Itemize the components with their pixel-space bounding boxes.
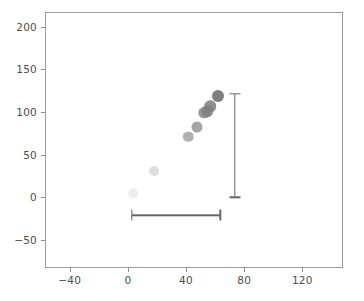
vertical-error-bar-cap-bottom	[229, 197, 240, 198]
x-tick-mark	[302, 268, 303, 272]
plot-axes-frame	[45, 12, 343, 268]
x-tick-label: −40	[58, 274, 81, 286]
y-tick-label: 150	[16, 63, 37, 75]
y-tick-label: −50	[14, 234, 37, 246]
y-tick-label: 0	[30, 191, 37, 203]
scatter-point	[192, 122, 203, 133]
plot-area	[46, 13, 342, 267]
vertical-error-bar-line	[234, 94, 235, 197]
y-tick-label: 200	[16, 21, 37, 33]
x-tick-label: 40	[179, 274, 193, 286]
x-tick-mark	[186, 268, 187, 272]
x-tick-label: 0	[124, 274, 131, 286]
figure: −50050100150200 −4004080120	[0, 0, 364, 301]
y-tick-label: 50	[23, 149, 37, 161]
scatter-point	[212, 90, 224, 102]
scatter-point	[183, 131, 194, 142]
x-tick-mark	[128, 268, 129, 272]
horizontal-error-bar-line	[132, 215, 221, 216]
scatter-point	[205, 100, 217, 112]
y-tick-label: 100	[16, 106, 37, 118]
scatter-point	[149, 166, 159, 176]
x-tick-label: 80	[237, 274, 251, 286]
x-tick-mark	[244, 268, 245, 272]
scatter-point	[128, 188, 138, 198]
horizontal-error-bar-cap-right	[220, 210, 221, 221]
x-tick-mark	[70, 268, 71, 272]
x-tick-label: 120	[292, 274, 313, 286]
horizontal-error-bar-cap-left	[131, 210, 132, 221]
vertical-error-bar-cap-top	[229, 93, 240, 94]
